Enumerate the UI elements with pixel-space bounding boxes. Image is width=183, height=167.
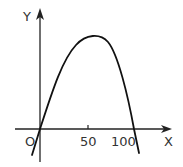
x-tick-label-100: 100 bbox=[111, 135, 136, 148]
x-axis-label: X bbox=[164, 135, 173, 148]
origin-label: O bbox=[25, 135, 35, 148]
y-axis-label: Y bbox=[23, 10, 31, 23]
x-tick-label-50: 50 bbox=[80, 135, 97, 148]
